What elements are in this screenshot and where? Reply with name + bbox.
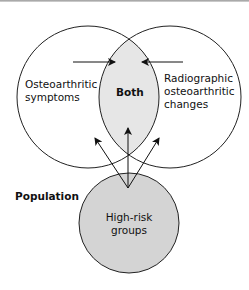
symptoms-label-line2: symptoms xyxy=(25,91,97,104)
population-label: Population xyxy=(15,190,79,203)
radiographic-label-line3: changes xyxy=(164,98,234,111)
symptoms-label: Osteoarthritic symptoms xyxy=(25,78,97,104)
venn-diagram xyxy=(0,0,249,290)
radiographic-label-line1: Radiographic xyxy=(164,72,234,85)
symptoms-label-line1: Osteoarthritic xyxy=(25,78,97,91)
radiographic-label: Radiographic osteoarthritic changes xyxy=(164,72,234,111)
high-risk-label-line1: High-risk xyxy=(104,211,154,224)
high-risk-label-line2: groups xyxy=(104,224,154,237)
both-label: Both xyxy=(116,86,144,99)
high-risk-label: High-risk groups xyxy=(104,211,154,237)
radiographic-label-line2: osteoarthritic xyxy=(164,85,234,98)
